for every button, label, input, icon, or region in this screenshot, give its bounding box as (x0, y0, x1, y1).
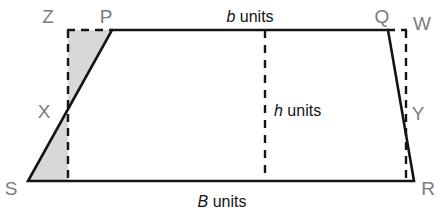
vertex-label-w: W (413, 13, 431, 34)
unit-top: units (240, 8, 274, 25)
dimension-label-bottom-base: B units (198, 193, 247, 210)
symbol-B: B (198, 193, 209, 210)
vertex-label-p: P (100, 6, 113, 27)
symbol-h: h (274, 102, 283, 119)
symbol-b: b (226, 8, 235, 25)
vertex-label-q: Q (375, 6, 390, 27)
trapezoid-diagram: Z P Q W X Y S R b units h units B units (0, 0, 441, 212)
dimension-label-top-base: b units (226, 8, 273, 25)
vertex-label-x: X (38, 101, 51, 122)
dimension-label-height: h units (274, 102, 321, 119)
vertex-label-z: Z (42, 6, 54, 27)
vertex-label-y: Y (412, 103, 425, 124)
vertex-label-s: S (5, 178, 18, 199)
unit-height: units (287, 102, 321, 119)
diagram-canvas: Z P Q W X Y S R b units h units B units (0, 0, 441, 212)
unit-bottom: units (213, 193, 247, 210)
vertex-label-r: R (421, 178, 435, 199)
